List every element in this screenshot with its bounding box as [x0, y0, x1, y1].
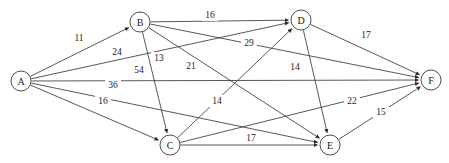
graph-edge-c-d	[178, 29, 292, 138]
graph-node-c[interactable]: C	[160, 135, 180, 155]
edge-weight-d-e: 14	[290, 62, 300, 72]
edge-labels-layer: 112454361616132129142217171415	[71, 9, 389, 144]
edge-weight-b-f: 29	[244, 38, 254, 48]
edge-weight-a-f: 54	[134, 65, 144, 75]
edge-weight-b-e: 21	[186, 61, 196, 71]
edge-weight-e-f: 15	[376, 107, 386, 117]
graph-edge-b-d	[150, 20, 288, 22]
edge-weight-a-b: 11	[74, 33, 83, 43]
graph-node-d[interactable]: D	[291, 10, 311, 30]
graph-node-e[interactable]: E	[320, 135, 340, 155]
edge-weight-a-e: 36	[108, 80, 118, 90]
graph-edge-b-c	[142, 32, 167, 133]
edge-weight-a-c: 16	[98, 96, 108, 106]
node-label-e: E	[327, 140, 333, 151]
graph-edge-a-f	[31, 80, 418, 81]
edge-weight-d-f: 17	[361, 30, 371, 40]
edge-weight-c-e: 17	[246, 133, 256, 143]
edge-weight-a-d: 24	[112, 47, 122, 57]
edge-weight-c-d: 14	[212, 96, 222, 106]
graph-node-b[interactable]: B	[130, 12, 150, 32]
graph-edge-a-e	[31, 83, 317, 142]
graph-node-f[interactable]: F	[421, 70, 441, 90]
graph-node-a[interactable]: A	[11, 71, 31, 91]
graph-edge-b-e	[149, 28, 320, 138]
node-label-b: B	[137, 17, 144, 28]
node-label-f: F	[428, 75, 434, 86]
edge-weight-c-f: 22	[347, 96, 357, 106]
graph-edge-a-c	[31, 85, 159, 140]
graph-diagram: 112454361616132129142217171415 ABCDEF	[0, 0, 449, 163]
node-label-a: A	[17, 76, 25, 87]
graph-edge-d-e	[303, 30, 327, 132]
nodes-layer: ABCDEF	[11, 10, 441, 155]
edge-weight-b-c: 13	[154, 53, 164, 63]
graph-edge-a-d	[31, 23, 288, 79]
node-label-d: D	[297, 15, 304, 26]
edge-weight-b-d: 16	[205, 10, 215, 20]
graph-svg: 112454361616132129142217171415 ABCDEF	[0, 0, 449, 163]
node-label-c: C	[167, 140, 174, 151]
